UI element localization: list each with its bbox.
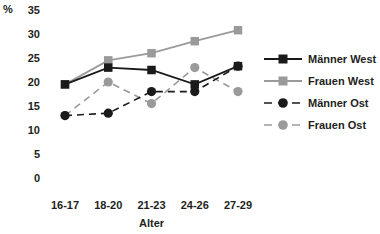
- legend-label: Männer Ost: [304, 97, 369, 109]
- legend-swatch-icon: [262, 52, 304, 66]
- legend-item-m-nner-ost[interactable]: Männer Ost: [262, 92, 380, 114]
- chart-legend: Männer WestFrauen WestMänner OstFrauen O…: [262, 48, 380, 136]
- legend-label: Frauen Ost: [304, 119, 366, 131]
- data-point: [104, 63, 113, 72]
- legend-swatch-icon: [262, 118, 304, 132]
- legend-label: Männer West: [304, 53, 376, 65]
- data-point: [190, 87, 199, 96]
- legend-item-frauen-west[interactable]: Frauen West: [262, 70, 380, 92]
- data-point: [233, 87, 242, 96]
- legend-label: Frauen West: [304, 75, 374, 87]
- legend-item-frauen-ost[interactable]: Frauen Ost: [262, 114, 380, 136]
- legend-swatch-icon: [262, 74, 304, 88]
- data-point: [147, 99, 156, 108]
- chart-figure: % 05101520253035 16-1718-2021-2324-2627-…: [0, 0, 380, 234]
- data-point: [147, 87, 156, 96]
- data-point: [104, 109, 113, 118]
- data-point: [147, 66, 156, 75]
- data-point: [191, 37, 200, 46]
- data-point: [233, 62, 242, 71]
- legend-item-m-nner-west[interactable]: Männer West: [262, 48, 380, 70]
- legend-swatch-icon: [262, 96, 304, 110]
- data-point: [61, 80, 70, 89]
- data-point: [190, 63, 199, 72]
- data-point: [104, 77, 113, 86]
- data-point: [234, 26, 243, 35]
- data-point: [60, 111, 69, 120]
- data-point: [147, 49, 156, 58]
- series-m-nner-west: [61, 62, 243, 89]
